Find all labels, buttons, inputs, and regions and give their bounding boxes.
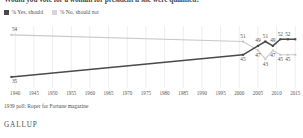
data-value-label: 35 — [12, 79, 17, 84]
data-value-label: 52 — [285, 32, 290, 37]
x-tick-label: 2010 — [271, 90, 281, 96]
data-value-label: 47 — [255, 53, 260, 58]
data-value-label: 47 — [270, 53, 275, 58]
x-axis-tick-labels: 1940194519501955196019651970197519801985… — [4, 90, 299, 99]
data-point-marker — [242, 40, 244, 42]
chart-footnote: 1939 poll: Roper for Fortune magazine — [4, 103, 88, 109]
legend-item-yes: % Yes, should — [4, 9, 43, 15]
x-tick-label: 1955 — [66, 90, 76, 96]
data-value-label: 51 — [240, 34, 245, 39]
gallup-logo: GALLUP — [4, 121, 38, 129]
chart-title: Would you vote for a woman for president… — [4, 0, 296, 4]
data-value-label: 45 — [278, 57, 283, 62]
legend-swatch-yes — [4, 10, 9, 15]
data-point-marker — [264, 40, 266, 42]
data-point-marker — [294, 38, 296, 40]
data-value-label: 45 — [285, 57, 290, 62]
series-line — [11, 35, 295, 59]
chart-figure: Would you vote for a woman for president… — [0, 0, 303, 138]
data-value-label: 43 — [263, 62, 268, 67]
x-tick-label: 1990 — [197, 90, 207, 96]
legend-label-yes: % Yes, should — [12, 9, 44, 15]
series-line — [11, 39, 295, 77]
x-tick-label: 1970 — [122, 90, 132, 96]
data-point-marker — [272, 45, 274, 47]
series-lines — [10, 34, 296, 78]
x-gridlines — [15, 26, 295, 88]
data-value-label: 45 — [240, 57, 245, 62]
data-point-marker — [10, 34, 12, 36]
x-tick-label: 1985 — [178, 90, 188, 96]
data-point-marker — [279, 38, 281, 40]
x-tick-label: 1995 — [215, 90, 225, 96]
x-tick-label: 2005 — [253, 90, 263, 96]
data-point-marker — [257, 45, 259, 47]
data-value-label: 54 — [12, 27, 17, 32]
x-tick-label: 1980 — [159, 90, 169, 96]
legend-label-no: % No, should not — [60, 9, 99, 15]
x-tick-label: 1960 — [85, 90, 95, 96]
data-value-label: 51 — [263, 34, 268, 39]
x-tick-label: 2015 — [290, 90, 300, 96]
x-tick-label: 1950 — [47, 90, 57, 96]
x-tick-label: 1945 — [29, 90, 39, 96]
data-point-marker — [294, 54, 296, 56]
x-tick-label: 1940 — [10, 90, 20, 96]
legend-item-no: % No, should not — [52, 9, 99, 15]
data-value-label: 49 — [270, 38, 275, 43]
legend-swatch-no — [52, 10, 57, 15]
plot-area: 3545495149525254514743474545 — [4, 26, 299, 88]
x-tick-label: 1975 — [141, 90, 151, 96]
chart-legend: % Yes, should % No, should not — [4, 9, 99, 15]
data-value-label: 49 — [255, 38, 260, 43]
x-tick-label: 2000 — [234, 90, 244, 96]
data-value-label: 52 — [278, 32, 283, 37]
x-tick-label: 1965 — [103, 90, 113, 96]
data-point-marker — [287, 38, 289, 40]
